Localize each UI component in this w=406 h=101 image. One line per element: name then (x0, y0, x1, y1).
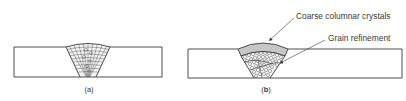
weld-lower-grain-refinement (241, 51, 285, 78)
label-grain-refinement: Grain refinement (328, 33, 391, 43)
leader-line-grain-refinement (282, 40, 325, 62)
caption-a: (a) (84, 85, 94, 94)
panel-a: (a) (14, 40, 162, 94)
leader-line-columnar-crystals (271, 18, 294, 39)
caption-b: (b) (261, 85, 271, 94)
plate-b-right (270, 49, 402, 78)
weld-bead-a (64, 40, 112, 80)
weld-grain-structure-diagram: (a) (0, 0, 406, 101)
panel-b: Coarse columnar crystals Grain refinemen… (188, 11, 402, 94)
label-coarse-columnar-crystals: Coarse columnar crystals (296, 11, 390, 21)
